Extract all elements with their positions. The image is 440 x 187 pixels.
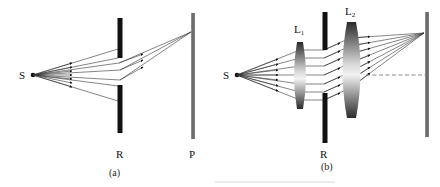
screen-label-p: P xyxy=(189,148,195,160)
barrier-r-lower-b xyxy=(323,93,328,143)
incident-rays-a xyxy=(33,49,118,101)
panel-b: S xyxy=(223,5,429,173)
barrier-label-a: R xyxy=(116,148,124,160)
barrier-r-upper-a xyxy=(118,18,123,58)
source-label-b: S xyxy=(223,69,229,81)
screen-b xyxy=(425,12,429,137)
barrier-r-lower-a xyxy=(118,85,123,133)
barrier-label-b: R xyxy=(320,148,328,160)
lens1-label: L1 xyxy=(294,23,305,37)
lens2-label: L2 xyxy=(345,5,356,19)
faint-caption-strip xyxy=(215,181,335,183)
lens2-subscript: 2 xyxy=(352,11,356,19)
diverging-rays-b xyxy=(237,50,300,100)
caption-a: (a) xyxy=(109,167,120,179)
converging-rays-b xyxy=(350,33,424,88)
lens-l2 xyxy=(343,22,361,118)
source-label-a: S xyxy=(19,69,25,81)
optics-diagram: S R P xyxy=(0,0,440,187)
screen-p xyxy=(191,13,195,139)
barrier-r-upper-b xyxy=(323,12,328,50)
panel-a: S R P xyxy=(19,13,195,179)
caption-b: (b) xyxy=(321,161,333,173)
lens1-subscript: 1 xyxy=(301,29,305,37)
lens-l1 xyxy=(294,42,306,109)
